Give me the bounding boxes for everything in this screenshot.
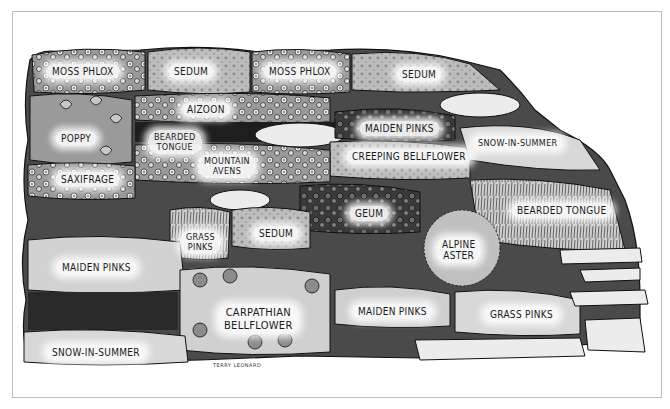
label-aizoon: AIZOON — [181, 102, 231, 117]
label-creeping-bellflower: CREEPING BELLFLOWER — [346, 149, 472, 164]
label-poppy: POPPY — [55, 131, 97, 146]
artist-signature: TERRY LEONARD — [213, 362, 261, 368]
label-bearded-tongue: BEARDED TONGUE — [511, 203, 612, 218]
label-geum: GEUM — [349, 206, 389, 221]
label-moss-phlox: MOSS PHLOX — [263, 64, 337, 79]
label-alpine-aster: ALPINE ASTER — [436, 237, 481, 263]
label-bearded-tongue: BEARDED TONGUE — [148, 130, 202, 154]
label-moss-phlox: MOSS PHLOX — [46, 64, 120, 79]
label-snow-in-summer: SNOW-IN-SUMMER — [46, 345, 146, 360]
label-grass-pinks: GRASS PINKS — [180, 230, 221, 254]
label-maiden-pinks: MAIDEN PINKS — [56, 260, 137, 275]
label-sedum: SEDUM — [168, 64, 214, 79]
label-maiden-pinks: MAIDEN PINKS — [359, 121, 440, 136]
label-maiden-pinks: MAIDEN PINKS — [352, 304, 433, 319]
label-mountain-avens: MOUNTAIN AVENS — [198, 154, 256, 178]
label-sedum: SEDUM — [396, 67, 442, 82]
label-sedum: SEDUM — [253, 226, 299, 241]
label-carpathian-bellflower: CARPATHIAN BELLFLOWER — [218, 304, 299, 334]
label-saxifrage: SAXIFRAGE — [55, 172, 120, 187]
label-snow-in-summer: SNOW-IN-SUMMER — [472, 136, 563, 150]
label-grass-pinks: GRASS PINKS — [484, 307, 559, 322]
